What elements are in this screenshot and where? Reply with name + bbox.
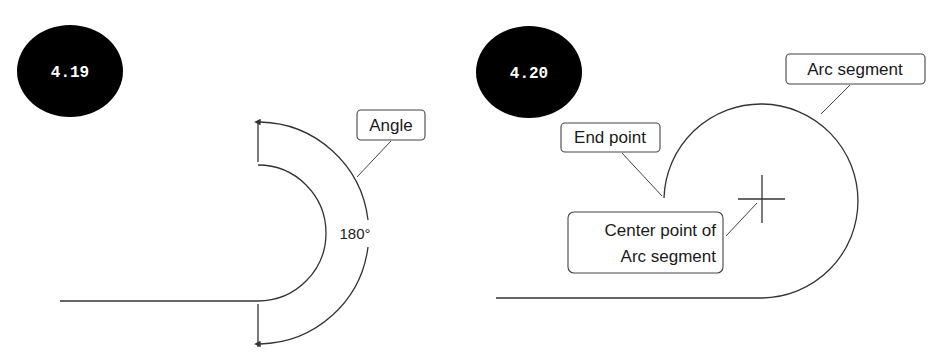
- figure-4-20: 4.20 Arc segment End point Center point …: [476, 26, 925, 298]
- figure-number-label: 4.19: [51, 64, 89, 82]
- dimension-arc-upper: [260, 122, 368, 220]
- leader-line: [726, 203, 757, 236]
- callout-label: Angle: [369, 116, 412, 135]
- callout-label-line-1: Center point of: [604, 221, 716, 240]
- callout-end-point: End point: [561, 123, 662, 196]
- leader-line: [357, 141, 391, 177]
- callout-center-point: Center point of Arc segment: [568, 203, 757, 273]
- callout-angle: Angle: [357, 110, 425, 177]
- figure-number-badge: 4.20: [476, 26, 582, 118]
- figure-number-badge: 4.19: [17, 25, 123, 117]
- figure-4-19: 4.19 180° Angle: [17, 25, 425, 347]
- callout-label: End point: [574, 128, 646, 147]
- leader-line: [622, 153, 662, 196]
- leader-line: [821, 85, 850, 114]
- angle-dimension-value: 180°: [339, 225, 370, 242]
- callout-label: Arc segment: [807, 60, 903, 79]
- callout-label-line-2: Arc segment: [621, 247, 717, 266]
- diagram-canvas: 4.19 180° Angle 4.20: [0, 0, 947, 361]
- semicircle-arc: [258, 165, 326, 301]
- dimension-arc-lower: [260, 247, 368, 344]
- figure-number-label: 4.20: [510, 65, 548, 83]
- callout-arc-segment: Arc segment: [786, 54, 925, 114]
